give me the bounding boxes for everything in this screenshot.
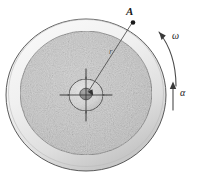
- rotating-disk-figure: A r ω α: [0, 0, 205, 173]
- alpha-arrow: [170, 82, 176, 111]
- disk-diagram-svg: [0, 0, 205, 173]
- point-a-marker: [131, 20, 136, 25]
- radius-label: r: [109, 47, 113, 56]
- angular-velocity-label: ω: [172, 31, 179, 41]
- angular-acceleration-label: α: [180, 88, 185, 98]
- point-a-label: A: [126, 6, 133, 17]
